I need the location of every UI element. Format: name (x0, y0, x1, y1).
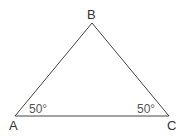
triangle-diagram: B A C 50° 50° (0, 0, 187, 138)
vertex-label-b: B (87, 7, 96, 22)
edge-bc (92, 23, 169, 116)
vertex-label-c: C (167, 118, 176, 133)
edge-ab (15, 23, 92, 116)
angle-label-a: 50° (29, 102, 47, 116)
vertex-label-a: A (9, 118, 18, 133)
angle-label-c: 50° (137, 102, 155, 116)
